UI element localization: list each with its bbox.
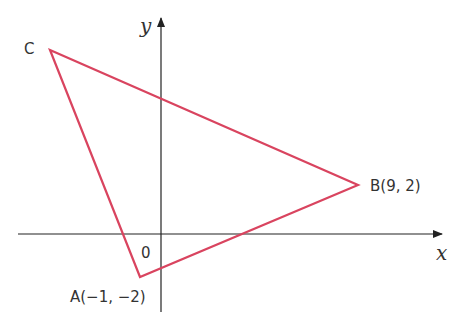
triangle-abc <box>50 50 358 277</box>
vertex-b-label: B(9, 2) <box>370 177 421 195</box>
x-axis-label: x <box>436 241 447 265</box>
y-axis-label: y <box>139 14 152 38</box>
vertex-a-label: A(−1, −2) <box>70 288 146 306</box>
origin-label: 0 <box>141 244 151 262</box>
coordinate-diagram: y x 0 C B(9, 2) A(−1, −2) <box>0 0 469 320</box>
vertex-c-label: C <box>24 40 34 58</box>
